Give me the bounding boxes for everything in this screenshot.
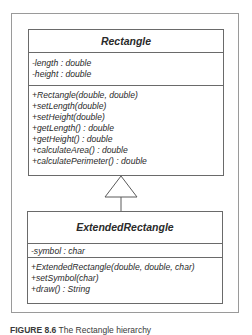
attributes-section: -symbol : char <box>28 244 222 258</box>
class-extended-rectangle: ExtendedRectangle -symbol : char +Extend… <box>27 211 223 304</box>
operation: +setSymbol(char) <box>31 273 222 284</box>
figure-caption: FIGURE 8.6 The Rectangle hierarchy <box>10 325 151 335</box>
figure-caption-text: The Rectangle hierarchy <box>59 325 152 335</box>
figure-label: FIGURE 8.6 <box>10 325 56 335</box>
operation: +draw() : String <box>31 284 222 295</box>
class-name: ExtendedRectangle <box>28 212 222 244</box>
operations-section: +ExtendedRectangle(double, double, char)… <box>28 258 222 295</box>
operation: +ExtendedRectangle(double, double, char) <box>31 262 222 273</box>
attribute: -symbol : char <box>31 245 222 257</box>
inheritance-triangle-icon <box>105 176 137 197</box>
